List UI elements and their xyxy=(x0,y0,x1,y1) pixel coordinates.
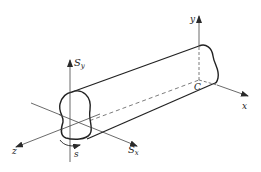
cross-section-left xyxy=(60,91,92,139)
label-c: C xyxy=(194,82,201,92)
label-s: s xyxy=(74,149,79,159)
label-sx: Sx xyxy=(128,144,139,157)
cross-section-right xyxy=(199,45,218,83)
x-axis-dashed xyxy=(199,80,217,85)
x-axis xyxy=(217,85,248,96)
label-z: z xyxy=(11,146,17,156)
beam-diagram: Sy z s Sx y x C xyxy=(0,0,261,172)
beam-top-edge xyxy=(72,46,199,92)
label-sy: Sy xyxy=(74,57,86,70)
label-y: y xyxy=(189,14,196,24)
label-x: x xyxy=(242,101,247,111)
diagram-svg: Sy z s Sx y x C xyxy=(0,0,261,172)
